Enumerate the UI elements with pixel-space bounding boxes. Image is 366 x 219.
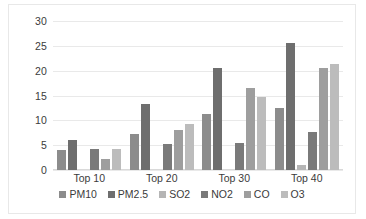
y-axis-tick-label: 5 [41, 139, 47, 151]
bar-pm10 [202, 114, 211, 170]
bar-o3 [185, 124, 194, 170]
bar-pm10 [57, 150, 66, 170]
legend-swatch-icon [201, 191, 208, 198]
y-axis-tick-label: 30 [35, 15, 47, 27]
bar-no2 [235, 143, 244, 170]
bar-co [174, 130, 183, 170]
bar-pm10 [275, 108, 284, 170]
legend-swatch-icon [244, 191, 251, 198]
legend-swatch-icon [108, 191, 115, 198]
x-axis-tick-label: Top 10 [53, 172, 126, 184]
bar-group [53, 21, 126, 170]
bar-pm10 [130, 134, 139, 170]
legend-label: CO [254, 188, 270, 200]
legend-item-so2[interactable]: SO2 [159, 188, 190, 200]
gridline [53, 170, 343, 171]
bar-pm25 [286, 43, 295, 170]
y-axis: 051015202530 [9, 5, 53, 170]
legend-label: PM10 [69, 188, 96, 200]
y-axis-tick-label: 20 [35, 65, 47, 77]
y-axis-tick-label: 15 [35, 90, 47, 102]
chart-container: 051015202530 Top 10Top 20Top 30Top 40 PM… [8, 4, 356, 214]
plot-area [53, 21, 343, 170]
x-axis-tick-label: Top 20 [126, 172, 199, 184]
legend-label: PM2.5 [118, 188, 148, 200]
bar-no2 [90, 149, 99, 170]
y-axis-tick-label: 10 [35, 114, 47, 126]
legend-item-co[interactable]: CO [244, 188, 270, 200]
bar-co [101, 159, 110, 170]
legend-item-pm10[interactable]: PM10 [59, 188, 96, 200]
y-axis-tick-label: 25 [35, 40, 47, 52]
legend-label: NO2 [211, 188, 233, 200]
x-axis-tick-label: Top 40 [271, 172, 344, 184]
y-axis-tick-label: 0 [41, 164, 47, 176]
bar-group [126, 21, 199, 170]
bar-group [271, 21, 344, 170]
bar-o3 [112, 149, 121, 170]
legend-label: SO2 [169, 188, 190, 200]
bar-pm25 [213, 68, 222, 170]
x-axis-tick-label: Top 30 [198, 172, 271, 184]
bar-group [198, 21, 271, 170]
legend-item-no2[interactable]: NO2 [201, 188, 233, 200]
legend-swatch-icon [159, 191, 166, 198]
bar-o3 [330, 64, 339, 170]
bar-o3 [257, 97, 266, 170]
legend-swatch-icon [59, 191, 66, 198]
bar-pm25 [141, 104, 150, 170]
legend-item-o3[interactable]: O3 [281, 188, 305, 200]
legend-label: O3 [291, 188, 305, 200]
bar-no2 [163, 144, 172, 170]
legend-swatch-icon [281, 191, 288, 198]
legend-item-pm25[interactable]: PM2.5 [108, 188, 148, 200]
x-axis: Top 10Top 20Top 30Top 40 [53, 172, 343, 186]
chart-legend: PM10PM2.5SO2NO2COO3 [9, 188, 355, 200]
bar-co [246, 88, 255, 170]
bar-co [319, 68, 328, 170]
bar-pm25 [68, 140, 77, 170]
bar-so2 [297, 165, 306, 170]
bar-no2 [308, 132, 317, 170]
